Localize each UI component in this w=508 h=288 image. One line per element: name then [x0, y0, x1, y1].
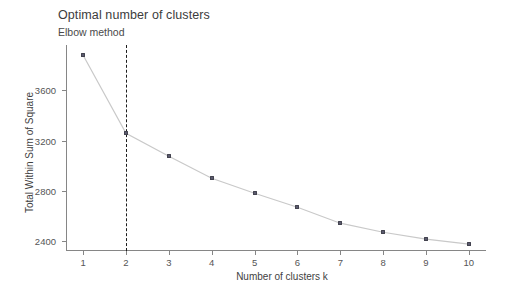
y-tick-mark	[62, 241, 66, 242]
x-tick-label: 8	[380, 257, 385, 268]
data-point-marker	[124, 131, 128, 135]
x-tick-label: 1	[80, 257, 85, 268]
x-tick-mark	[383, 251, 384, 255]
x-tick-label: 5	[252, 257, 257, 268]
x-tick-mark	[426, 251, 427, 255]
x-axis-line	[66, 250, 486, 251]
y-axis-title: Total Within Sum of Square	[24, 83, 35, 223]
x-tick-label: 9	[423, 257, 428, 268]
chart-subtitle: Elbow method	[58, 26, 125, 38]
data-point-marker	[424, 237, 428, 241]
x-tick-label: 4	[209, 257, 214, 268]
data-point-marker	[167, 154, 171, 158]
x-tick-mark	[126, 251, 127, 255]
x-axis-title: Number of clusters k	[0, 271, 508, 282]
x-tick-mark	[169, 251, 170, 255]
x-tick-mark	[212, 251, 213, 255]
data-point-marker	[381, 230, 385, 234]
y-tick-mark	[62, 141, 66, 142]
data-point-marker	[253, 191, 257, 195]
x-tick-label: 3	[166, 257, 171, 268]
data-point-marker	[295, 205, 299, 209]
x-tick-mark	[469, 251, 470, 255]
x-tick-label: 2	[123, 257, 128, 268]
chart-title: Optimal number of clusters	[58, 8, 210, 22]
x-tick-label: 6	[295, 257, 300, 268]
series-line	[0, 0, 508, 288]
x-tick-label: 10	[464, 257, 475, 268]
data-point-marker	[81, 53, 85, 57]
data-point-marker	[467, 242, 471, 246]
x-tick-mark	[340, 251, 341, 255]
x-tick-label: 7	[338, 257, 343, 268]
y-tick-label: 2400	[0, 236, 56, 247]
elbow-vertical-line	[126, 45, 127, 251]
elbow-method-chart: Optimal number of clusters Elbow method …	[0, 0, 508, 288]
x-tick-mark	[83, 251, 84, 255]
data-point-marker	[210, 176, 214, 180]
x-tick-mark	[297, 251, 298, 255]
y-axis-line	[66, 45, 67, 250]
data-point-marker	[338, 221, 342, 225]
y-tick-mark	[62, 191, 66, 192]
x-tick-mark	[255, 251, 256, 255]
y-tick-mark	[62, 90, 66, 91]
